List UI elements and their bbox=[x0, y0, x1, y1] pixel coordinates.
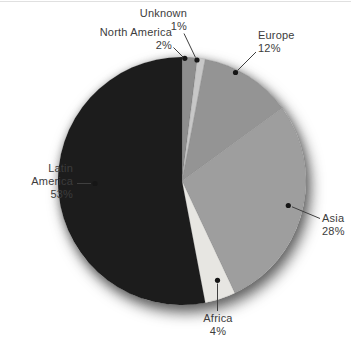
pie-chart bbox=[58, 57, 306, 305]
label-line: Latin bbox=[31, 162, 73, 175]
slice-label-africa: Africa 4% bbox=[203, 312, 232, 338]
label-line: 28% bbox=[322, 225, 345, 238]
slice-label-latin-america: Latin America 53% bbox=[31, 162, 73, 201]
label-line: Europe bbox=[258, 29, 295, 42]
label-line: North America bbox=[100, 26, 172, 39]
label-line: 4% bbox=[203, 325, 232, 338]
pie-chart-figure: Unknown 1% North America 2% Europe 12% A… bbox=[0, 0, 351, 347]
leader-line-unknown bbox=[184, 34, 196, 58]
label-line: 2% bbox=[100, 39, 172, 52]
slice-label-north-america: North America 2% bbox=[100, 26, 172, 52]
label-line: Asia bbox=[322, 212, 345, 225]
label-line: 12% bbox=[258, 42, 295, 55]
leader-line-north-america bbox=[174, 48, 184, 58]
top-divider bbox=[0, 1, 351, 2]
label-line: America bbox=[31, 175, 73, 188]
label-line: 53% bbox=[31, 188, 73, 201]
slice-label-europe: Europe 12% bbox=[258, 29, 295, 55]
label-line: Unknown bbox=[140, 7, 187, 20]
slice-label-asia: Asia 28% bbox=[322, 212, 345, 238]
label-line: Africa bbox=[203, 312, 232, 325]
